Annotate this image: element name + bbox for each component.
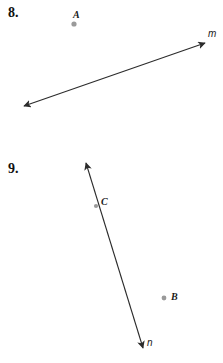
problem-number-9: 9. xyxy=(8,162,19,176)
point-label-c: C xyxy=(101,197,108,207)
point-C xyxy=(94,204,98,208)
geometry-figures xyxy=(0,0,223,363)
point-label-b: B xyxy=(171,292,178,302)
point-A xyxy=(71,21,76,26)
point-B xyxy=(162,296,167,301)
line-label-m: m xyxy=(208,29,216,39)
line-n xyxy=(86,163,143,348)
line-n-group xyxy=(86,163,143,348)
line-m xyxy=(24,43,205,106)
line-m-group xyxy=(24,43,205,106)
worksheet-page: 8. 9. A m C B n xyxy=(0,0,223,363)
line-label-n: n xyxy=(147,338,153,348)
point-label-a: A xyxy=(73,10,80,20)
problem-number-8: 8. xyxy=(8,6,19,20)
